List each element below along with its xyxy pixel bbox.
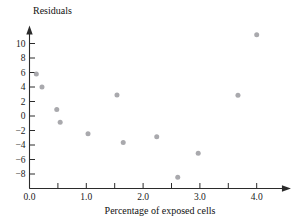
y-tick-label: −8 xyxy=(15,169,25,179)
y-axis-arrow-icon xyxy=(26,25,32,34)
data-point xyxy=(54,107,59,112)
x-tick-label: 1.0 xyxy=(80,192,92,202)
x-axis-arrow-icon xyxy=(282,185,291,191)
y-axis-title: Residuals xyxy=(33,5,72,16)
y-tick-label: 8 xyxy=(21,53,26,63)
data-point xyxy=(196,151,201,156)
y-tick-label: 6 xyxy=(21,68,26,78)
data-point xyxy=(121,140,126,145)
data-point xyxy=(154,134,159,139)
residual-scatter-plot-figure: −8−6−4−20246810 0.01.02.03.04.0 Residual… xyxy=(0,0,295,220)
data-point xyxy=(235,93,240,98)
y-tick-label: −2 xyxy=(15,126,25,136)
x-tick-label: 2.0 xyxy=(137,192,149,202)
y-tick-label: 0 xyxy=(21,111,26,121)
data-point xyxy=(58,120,63,125)
y-tick-label: 4 xyxy=(21,82,26,92)
y-axis-ticks: −8−6−4−20246810 xyxy=(15,39,35,180)
x-axis-ticks: 0.01.02.03.04.0 xyxy=(24,183,263,202)
x-tick-label: 4.0 xyxy=(251,192,263,202)
x-tick-label: 0.0 xyxy=(24,192,36,202)
y-tick-label: −6 xyxy=(15,155,25,165)
data-point xyxy=(175,175,180,180)
data-points-group xyxy=(34,32,259,179)
x-axis-title: Percentage of exposed cells xyxy=(105,205,216,216)
data-point xyxy=(114,92,119,97)
data-point xyxy=(86,131,91,136)
data-point xyxy=(254,32,259,37)
data-point xyxy=(34,71,39,76)
axes-group xyxy=(26,25,291,191)
data-point xyxy=(39,85,44,90)
x-tick-label: 3.0 xyxy=(194,192,206,202)
y-tick-label: −4 xyxy=(15,140,25,150)
y-tick-label: 10 xyxy=(16,39,26,49)
y-tick-label: 2 xyxy=(21,97,26,107)
plot-canvas: −8−6−4−20246810 0.01.02.03.04.0 Residual… xyxy=(0,0,295,220)
